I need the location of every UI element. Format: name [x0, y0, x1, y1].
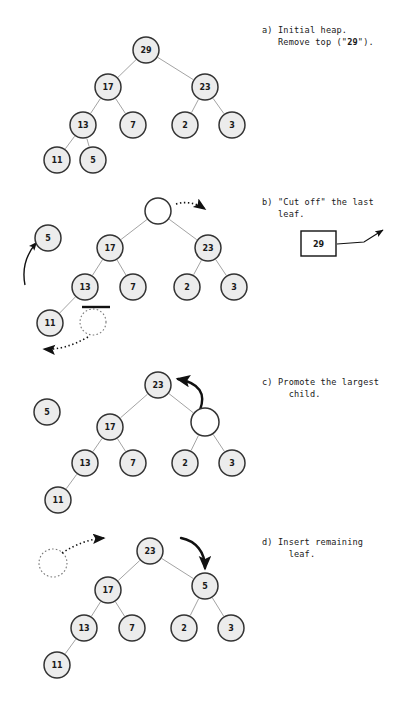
ghost-node-outline: [80, 309, 106, 335]
caption-d-line1: Insert remaining: [278, 537, 363, 547]
tree-edge: [93, 438, 102, 451]
node-value: 13: [79, 283, 90, 292]
node-value: 3: [228, 624, 234, 633]
tree-node: 3: [219, 450, 245, 476]
caption-a-line2-pre: Remove top (": [278, 37, 347, 47]
tree-edges-layer: [60, 57, 226, 653]
node-value: 2: [182, 121, 188, 130]
tree-node: 13: [72, 450, 98, 476]
node-value: 3: [229, 121, 235, 130]
tree-edge: [118, 561, 139, 581]
node-value: 2: [181, 624, 187, 633]
tree-node: 5: [80, 147, 106, 173]
tree-edge: [169, 394, 193, 413]
tree-node: 11: [44, 652, 70, 678]
move-leaf-arrow: [24, 243, 36, 285]
node-value: 5: [45, 234, 51, 243]
caption-d: d) Insert remaining leaf.: [262, 536, 363, 561]
caption-d-marker: d): [262, 537, 273, 547]
tree-edge: [169, 219, 196, 239]
node-value: 13: [78, 624, 89, 633]
tree-node: 7: [120, 112, 146, 138]
tree-edge: [60, 297, 75, 313]
caption-b-marker: b): [262, 197, 273, 207]
node-value: 23: [202, 244, 213, 253]
tree-node: 23: [137, 538, 163, 564]
node-value: 5: [90, 156, 96, 165]
tree-edge: [194, 260, 202, 274]
caption-b-line1: "Cut off" the last: [278, 197, 374, 207]
tree-node: 17: [95, 577, 121, 603]
tree-edge: [191, 435, 198, 450]
node-value: 11: [51, 156, 63, 165]
tree-edge: [87, 138, 89, 146]
remove-root-arrow: [176, 203, 205, 209]
tree-edge: [93, 260, 103, 275]
tree-node: 2: [172, 112, 198, 138]
tree-edge: [213, 435, 224, 452]
node-value: 17: [104, 423, 115, 432]
heap-removal-figure: 2917231372311517231372311529231713723115…: [0, 0, 418, 701]
node-value: 3: [229, 459, 235, 468]
tree-node: 13: [72, 274, 98, 300]
tree-nodes-layer: 2917231372311517231372311529231713723115…: [34, 37, 336, 678]
caption-c-line1: Promote the largest: [278, 377, 379, 387]
insert-into-slot-arrow: [181, 538, 205, 568]
tree-node: 11: [44, 147, 70, 173]
tree-edge: [91, 602, 100, 616]
heap-diagram-canvas: 2917231372311517231372311529231713723115…: [0, 0, 418, 701]
promote-child-arrow: [178, 379, 202, 410]
tree-edge: [190, 599, 198, 616]
tree-node: 2: [172, 450, 198, 476]
tree-node: 23: [195, 235, 221, 261]
tree-edge: [121, 394, 148, 418]
tree-node: 13: [70, 112, 96, 138]
tree-edge: [91, 99, 101, 114]
node-value: 17: [102, 586, 113, 595]
tree-node: 2: [171, 615, 197, 641]
tree-edge: [65, 136, 74, 149]
node-value: 17: [104, 244, 115, 253]
reinsert-leaf-arrow: [62, 538, 104, 553]
caption-b-line2: leaf.: [278, 209, 305, 219]
node-circle: [191, 408, 219, 436]
tree-edge: [115, 602, 124, 616]
tree-node: 11: [45, 487, 71, 513]
tree-node: 3: [221, 274, 247, 300]
caption-c-line2: child.: [289, 389, 321, 399]
node-value: 11: [51, 661, 63, 670]
caption-c: c) Promote the largest child.: [262, 376, 379, 401]
tree-node: 17: [97, 414, 123, 440]
caption-c-marker: c): [262, 377, 273, 387]
tree-node: 17: [95, 74, 121, 100]
tree-edge: [121, 220, 147, 240]
node-value: 5: [44, 408, 50, 417]
caption-a-line2-post: ").: [358, 37, 374, 47]
tree-node: 23: [145, 372, 171, 398]
tree-node: 3: [218, 615, 244, 641]
tree-edge: [212, 598, 223, 616]
removed-box-arrow: [337, 230, 383, 244]
tree-node: 7: [119, 615, 145, 641]
tree-edge: [192, 99, 199, 112]
tree-edge: [213, 98, 224, 113]
tree-edge: [158, 57, 193, 79]
tree-node: 23: [192, 74, 218, 100]
tree-node: 17: [97, 235, 123, 261]
node-value: 7: [129, 624, 135, 633]
tree-edge: [216, 260, 226, 276]
tree-node: 3: [219, 112, 245, 138]
tree-edge: [116, 99, 126, 114]
node-value: 2: [184, 283, 190, 292]
detach-leaf-arrow: [44, 337, 88, 349]
node-value: 11: [44, 319, 56, 328]
node-value: 11: [52, 496, 64, 505]
tree-node-empty: [145, 198, 171, 224]
caption-b: b) "Cut off" the last leaf.: [262, 196, 374, 221]
caption-a-line2-bold: 29: [347, 37, 358, 47]
node-value: 23: [152, 381, 163, 390]
caption-a: a) Initial heap. Remove top ("29").: [262, 24, 374, 49]
box-value: 29: [313, 240, 325, 249]
node-value: 5: [202, 582, 208, 591]
caption-a-line1: Initial heap.: [278, 25, 347, 35]
